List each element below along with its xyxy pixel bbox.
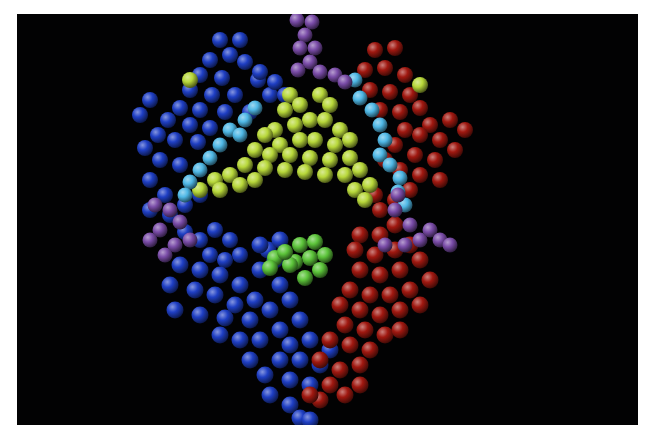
atom-sphere <box>387 217 404 234</box>
atom-sphere <box>287 117 303 133</box>
atom-sphere <box>148 198 163 213</box>
atom-sphere <box>212 327 229 344</box>
atom-sphere <box>232 247 248 263</box>
atom-sphere <box>302 112 318 128</box>
atom-sphere <box>327 137 343 153</box>
atom-sphere <box>277 244 293 260</box>
atom-sphere <box>227 87 243 103</box>
atom-sphere <box>291 63 306 78</box>
atom-sphere <box>292 237 308 253</box>
atom-sphere <box>277 102 293 118</box>
atom-sphere <box>332 362 349 379</box>
atom-sphere <box>382 287 399 304</box>
atom-sphere <box>202 247 218 263</box>
atom-sphere <box>317 167 333 183</box>
atom-sphere <box>292 97 308 113</box>
atom-sphere <box>427 152 443 168</box>
atom-sphere <box>305 15 320 30</box>
atom-sphere <box>342 132 358 148</box>
atom-sphere <box>362 287 379 304</box>
atom-sphere <box>233 128 248 143</box>
atom-sphere <box>412 100 428 116</box>
atom-sphere <box>403 218 418 233</box>
atom-sphere <box>347 242 364 259</box>
atom-sphere <box>182 117 198 133</box>
atom-sphere <box>212 182 228 198</box>
atom-sphere <box>308 41 323 56</box>
atom-sphere <box>292 352 309 369</box>
atom-sphere <box>262 260 278 276</box>
atom-sphere <box>357 192 373 208</box>
atom-sphere <box>163 203 178 218</box>
atom-sphere <box>443 238 458 253</box>
atom-sphere <box>302 387 319 404</box>
atom-sphere <box>322 97 338 113</box>
atom-sphere <box>391 188 406 203</box>
atom-sphere <box>365 103 380 118</box>
atom-sphere <box>183 233 198 248</box>
atom-sphere <box>298 28 313 43</box>
atom-sphere <box>432 132 448 148</box>
atom-sphere <box>392 262 409 279</box>
atom-sphere <box>237 54 253 70</box>
atom-sphere <box>352 227 369 244</box>
atom-sphere <box>317 247 333 263</box>
atom-sphere <box>332 297 349 314</box>
atom-sphere <box>257 367 274 384</box>
atom-sphere <box>158 248 173 263</box>
atom-sphere <box>422 272 439 289</box>
atom-sphere <box>178 188 193 203</box>
atom-sphere <box>393 171 408 186</box>
atom-sphere <box>367 42 383 58</box>
atom-sphere <box>383 158 398 173</box>
atom-sphere <box>382 84 398 100</box>
atom-sphere <box>442 112 458 128</box>
atom-sphere <box>193 163 208 178</box>
atom-sphere <box>247 172 263 188</box>
atom-sphere <box>357 322 374 339</box>
atom-sphere <box>377 60 393 76</box>
atom-sphere <box>338 75 353 90</box>
atom-sphere <box>204 87 220 103</box>
atom-sphere <box>373 118 388 133</box>
atom-sphere <box>247 142 263 158</box>
atom-sphere <box>242 352 259 369</box>
atom-sphere <box>397 67 413 83</box>
atom-sphere <box>297 270 313 286</box>
atom-sphere <box>190 134 206 150</box>
atom-sphere <box>337 167 353 183</box>
atom-sphere <box>183 175 198 190</box>
atom-sphere <box>212 32 228 48</box>
atom-sphere <box>172 100 188 116</box>
atom-sphere <box>282 147 298 163</box>
atom-sphere <box>272 277 289 294</box>
atom-sphere <box>212 267 229 284</box>
atom-sphere <box>412 167 428 183</box>
atom-sphere <box>402 282 419 299</box>
molecular-render-panel <box>17 14 638 425</box>
atom-sphere <box>192 102 208 118</box>
atom-sphere <box>137 140 153 156</box>
atom-sphere <box>307 234 323 250</box>
atom-sphere <box>143 233 158 248</box>
atom-sphere <box>432 172 448 188</box>
atom-sphere <box>353 91 368 106</box>
atom-sphere <box>214 70 230 86</box>
atom-sphere <box>252 332 269 349</box>
atom-sphere <box>412 297 429 314</box>
atom-sphere <box>202 52 218 68</box>
atom-sphere <box>407 147 423 163</box>
atom-sphere <box>302 332 319 349</box>
atom-sphere <box>150 127 166 143</box>
atom-sphere <box>232 277 249 294</box>
atom-sphere <box>378 133 393 148</box>
atom-sphere <box>317 112 333 128</box>
atom-sphere <box>388 203 403 218</box>
atom-sphere <box>312 262 328 278</box>
atom-sphere <box>392 104 408 120</box>
atom-sphere <box>192 262 209 279</box>
atom-sphere <box>272 352 289 369</box>
atom-sphere <box>167 302 184 319</box>
atom-sphere <box>292 312 309 329</box>
atom-sphere <box>297 164 313 180</box>
